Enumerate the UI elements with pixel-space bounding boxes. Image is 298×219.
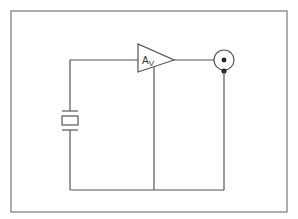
crystal-icon [62,111,78,130]
circuit-diagram: AV [0,0,298,219]
amplifier-icon: AV [138,44,174,72]
input-wire [70,60,138,190]
diagram-frame [11,11,287,212]
amplifier-label: AV [142,55,155,68]
coax-connector-icon [214,50,234,74]
